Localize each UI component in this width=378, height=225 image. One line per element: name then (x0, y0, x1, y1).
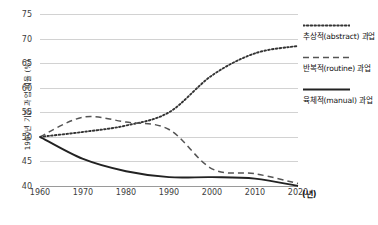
y-tick-70: 70 (22, 34, 32, 43)
series-line-dashed (40, 117, 298, 184)
y-tick-45: 45 (22, 157, 32, 166)
legend-item-dotted[interactable]: 추상적(abstract) 과업 (303, 22, 378, 41)
x-tick-1970: 1970 (73, 188, 93, 197)
legend-line-sample-solid (303, 86, 350, 93)
chart-legend: 추상적(abstract) 과업반복적(routine) 과업육체적(manua… (303, 22, 378, 118)
gridline-40 (40, 186, 298, 187)
y-tick-50: 50 (22, 132, 32, 141)
series-lines (40, 14, 298, 186)
legend-label-dashed: 반복적(routine) 과업 (303, 62, 378, 73)
series-line-dotted (40, 46, 298, 137)
legend-item-solid[interactable]: 육체적(manual) 과업 (303, 86, 378, 105)
legend-label-dotted: 추상적(abstract) 과업 (303, 30, 378, 41)
legend-label-solid: 육체적(manual) 과업 (303, 94, 378, 105)
legend-item-dashed[interactable]: 반복적(routine) 과업 (303, 54, 378, 73)
y-tick-60: 60 (22, 83, 32, 92)
x-tick-2000: 2000 (202, 188, 222, 197)
x-tick-1960: 1960 (30, 188, 50, 197)
series-line-solid (40, 137, 298, 186)
y-axis-tick-labels: 7570656055504540 (0, 14, 36, 186)
x-axis-tick-labels: 1960197019801990200020102020 (40, 188, 298, 202)
y-tick-55: 55 (22, 108, 32, 117)
x-axis-unit-label: (년) (302, 188, 316, 199)
legend-line-sample-dashed (303, 54, 350, 61)
y-tick-65: 65 (22, 59, 32, 68)
x-tick-1980: 1980 (116, 188, 136, 197)
x-tick-2010: 2010 (245, 188, 265, 197)
y-tick-75: 75 (22, 10, 32, 19)
x-tick-1990: 1990 (159, 188, 179, 197)
chart-root: 1960년 기준 과업 비율 (%) 7570656055504540 1960… (0, 0, 378, 225)
plot-area (40, 14, 298, 186)
legend-line-sample-dotted (303, 22, 350, 29)
